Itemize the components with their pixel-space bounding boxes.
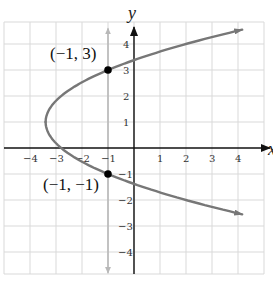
y-tick-label: 2: [123, 91, 129, 102]
y-tick-label: −2: [118, 195, 133, 206]
x-tick-label: −4: [23, 153, 38, 164]
x-tick-label: 3: [209, 153, 215, 164]
y-tick-label: 3: [123, 65, 129, 76]
y-axis-label: y: [126, 3, 136, 23]
parabola-chart: yx −4−3−2−11234−4−3−2−11234 (−1, 3)(−1, …: [0, 0, 273, 285]
point-label: (−1, −1): [43, 175, 99, 194]
x-tick-label: −3: [49, 153, 64, 164]
y-tick-label: −3: [118, 221, 133, 232]
y-tick-label: 1: [123, 117, 129, 128]
x-tick-label: 2: [183, 153, 189, 164]
point-label: (−1, 3): [50, 44, 96, 63]
y-tick-label: 4: [123, 39, 129, 50]
y-tick-label: −4: [118, 247, 133, 258]
x-tick-label: −1: [101, 153, 116, 164]
x-tick-label: 1: [157, 153, 163, 164]
point-marker: [104, 66, 112, 74]
x-tick-label: 4: [235, 153, 241, 164]
point-marker: [104, 170, 112, 178]
x-axis-label: x: [267, 139, 273, 159]
